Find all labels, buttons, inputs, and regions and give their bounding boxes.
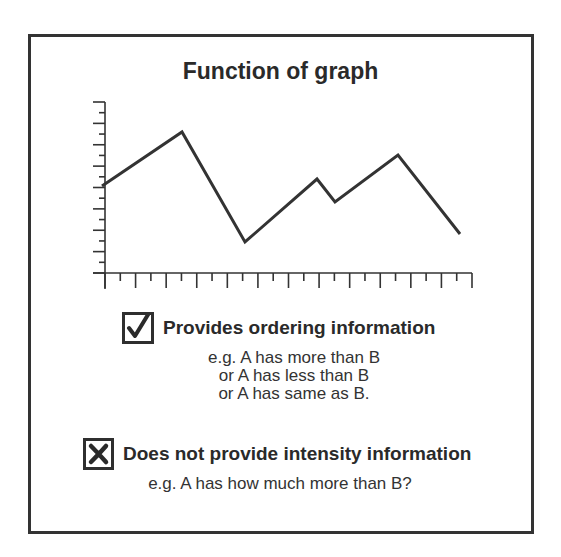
line-graph (0, 0, 561, 300)
cross-box (83, 438, 114, 470)
ordering-example-2: or A has less than B (199, 366, 389, 386)
ordering-example-3: or A has same as B. (199, 384, 389, 404)
intensity-heading: Does not provide intensity information (123, 443, 471, 465)
graph-line (102, 132, 460, 242)
checkmark-icon (125, 315, 151, 341)
graph-axes (93, 102, 472, 289)
cross-icon (86, 441, 111, 467)
check-box (122, 312, 154, 344)
intensity-example-1: e.g. A has how much more than B? (140, 474, 420, 494)
ordering-example-1: e.g. A has more than B (199, 348, 389, 368)
ordering-heading: Provides ordering information (163, 317, 435, 339)
